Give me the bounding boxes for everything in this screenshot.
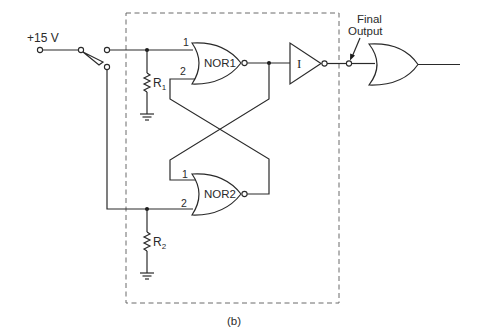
resistor-r1: R1 <box>140 50 167 120</box>
supply-label: +15 V <box>27 31 59 45</box>
nor2-pin2: 2 <box>181 197 187 209</box>
switch-pivot <box>78 47 83 52</box>
circuit-diagram: +15 V R1 R2 NOR1 1 2 <box>0 0 484 335</box>
final-output-terminal <box>346 61 351 66</box>
nor1-gate: NOR1 1 2 <box>180 36 247 84</box>
nor1-pin1: 1 <box>183 36 189 48</box>
inverter-label: I <box>297 56 301 71</box>
resistor-r2: R2 <box>140 209 167 279</box>
nor1-pin2: 2 <box>180 65 186 77</box>
svg-text:R2: R2 <box>153 235 167 251</box>
switch-contact-top <box>104 47 109 52</box>
svg-text:R1: R1 <box>153 76 167 92</box>
inverter-gate: I <box>290 43 327 84</box>
final-output-line1: Final <box>357 13 382 25</box>
switch-contact-bottom <box>104 64 109 69</box>
figure-caption: (b) <box>227 315 241 327</box>
or-gate <box>369 44 460 85</box>
nor1-label: NOR1 <box>204 57 236 69</box>
r2-label: R <box>153 235 162 249</box>
supply-switch: +15 V <box>27 31 110 70</box>
supply-terminal <box>37 47 42 52</box>
r2-subscript: 2 <box>162 242 167 251</box>
nor2-pin1: 1 <box>182 168 188 180</box>
nor2-gate: NOR2 1 2 <box>181 168 247 215</box>
nor2-label: NOR2 <box>204 188 236 200</box>
final-output-line2: Output <box>348 25 383 37</box>
r1-subscript: 1 <box>162 83 167 92</box>
r1-label: R <box>153 76 162 90</box>
